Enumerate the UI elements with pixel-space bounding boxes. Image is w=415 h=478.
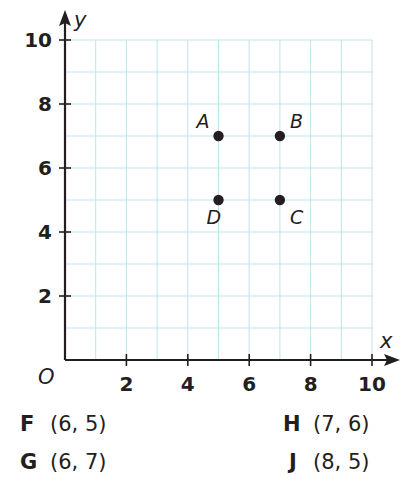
y-axis-label: y — [73, 8, 87, 32]
choice-coordinate: (8, 5) — [313, 450, 369, 474]
point-label-c: C — [290, 206, 304, 228]
point-d — [213, 195, 223, 205]
x-tick-label: 8 — [304, 372, 318, 396]
x-tick-label: 6 — [242, 372, 256, 396]
point-b — [275, 131, 285, 141]
answer-choice-g[interactable]: G(6, 7) — [20, 450, 106, 474]
choice-coordinate: (6, 5) — [50, 412, 106, 436]
axis-ticks: 246810246810 — [24, 28, 386, 396]
answer-choice-j[interactable]: J(8, 5) — [289, 450, 369, 474]
point-label-d: D — [207, 206, 222, 228]
y-tick-label: 10 — [24, 28, 52, 52]
y-tick-label: 2 — [38, 284, 52, 308]
point-label-a: A — [195, 110, 210, 132]
answer-choice-f[interactable]: F(6, 5) — [20, 412, 106, 436]
x-tick-label: 4 — [181, 372, 195, 396]
choice-coordinate: (7, 6) — [313, 412, 369, 436]
choice-letter: J — [289, 450, 313, 474]
choice-letter: G — [20, 450, 50, 474]
x-axis-label: x — [379, 329, 393, 353]
x-tick-label: 2 — [119, 372, 133, 396]
answer-choices: F(6, 5) G(6, 7) H(7, 6) J(8, 5) — [0, 400, 415, 478]
choice-letter: F — [20, 412, 50, 436]
y-tick-label: 6 — [38, 156, 52, 180]
point-a — [213, 131, 223, 141]
choice-coordinate: (6, 7) — [50, 450, 106, 474]
point-label-b: B — [290, 110, 303, 132]
y-tick-label: 4 — [38, 220, 52, 244]
point-c — [275, 195, 285, 205]
y-tick-label: 8 — [38, 92, 52, 116]
coordinate-plane: xyO 246810246810 ABCD — [0, 0, 415, 400]
x-tick-label: 10 — [358, 372, 386, 396]
answer-choice-h[interactable]: H(7, 6) — [283, 412, 369, 436]
origin-label: O — [38, 365, 55, 389]
choice-letter: H — [283, 412, 313, 436]
